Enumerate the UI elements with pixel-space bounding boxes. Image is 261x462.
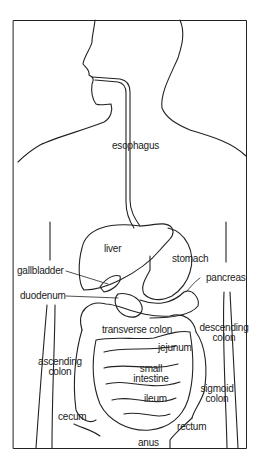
duodenum-shape	[115, 293, 142, 317]
torso-right-inner	[230, 292, 238, 448]
pancreas-shape	[140, 291, 198, 318]
intestine-loop-5	[124, 413, 170, 416]
label-anus: anus	[138, 438, 159, 448]
label-pancreas: pancreas	[206, 273, 246, 283]
label-transverse-colon: transverse colon	[102, 325, 172, 335]
label-ascending-colon-line2: colon	[36, 367, 84, 377]
esophagus-tube	[92, 77, 140, 226]
label-jejunum: jejunum	[158, 343, 192, 353]
pancreas-leader	[186, 278, 200, 292]
label-ascending-colon: ascending colon	[36, 357, 84, 377]
cecum-shape	[74, 424, 100, 436]
label-rectum: rectum	[177, 422, 206, 432]
label-cecum: cecum	[58, 412, 86, 422]
duodenum-leader	[66, 296, 118, 298]
liver-shape	[79, 224, 173, 290]
label-sigmoid-colon: sigmoid colon	[194, 384, 240, 404]
label-sigmoid-colon-line2: colon	[194, 394, 240, 404]
body-outline-right	[162, 20, 246, 156]
body-outline-left	[18, 20, 112, 162]
torso-right-lower	[223, 292, 227, 448]
label-small-intestine: small intestine	[130, 364, 172, 384]
label-liver: liver	[104, 244, 121, 254]
descending-colon	[192, 332, 206, 418]
gallbladder-shape	[100, 275, 120, 292]
label-esophagus: esophagus	[112, 141, 159, 151]
label-descending-colon: descending colon	[196, 323, 252, 343]
label-stomach: stomach	[172, 254, 208, 264]
label-gallbladder: gallbladder	[17, 266, 64, 276]
label-duodenum: duodenum	[20, 291, 66, 301]
gallbladder-leader	[66, 271, 108, 284]
esophagus-tube-inner	[95, 80, 134, 228]
label-small-intestine-line2: intestine	[130, 374, 172, 384]
label-ileum: ileum	[144, 394, 167, 404]
label-descending-colon-line2: colon	[196, 333, 252, 343]
